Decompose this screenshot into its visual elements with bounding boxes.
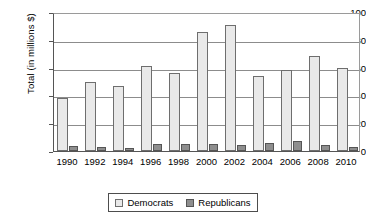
bar-group — [57, 14, 78, 151]
legend-entry-democrats[interactable]: Democrats — [115, 198, 173, 208]
bar-democrats[interactable] — [169, 73, 180, 151]
bar-chart: Total (in millions $) 020406080100 19901… — [0, 0, 366, 224]
x-tick-label: 1990 — [53, 157, 81, 167]
bar-group — [169, 14, 190, 151]
x-tick-label: 2004 — [248, 157, 276, 167]
x-tick-label: 2000 — [193, 157, 221, 167]
x-tick-label: 1996 — [137, 157, 165, 167]
bar-democrats[interactable] — [85, 82, 96, 152]
x-tick-label: 2006 — [276, 157, 304, 167]
bar-republicans[interactable] — [265, 143, 274, 151]
bar-republicans[interactable] — [153, 144, 162, 151]
legend-entry-republicans[interactable]: Republicans — [186, 198, 250, 208]
bar-democrats[interactable] — [113, 86, 124, 151]
bar-group — [253, 14, 274, 151]
bar-groups — [54, 14, 359, 151]
bar-group — [309, 14, 330, 151]
bar-democrats[interactable] — [253, 76, 264, 151]
bar-republicans[interactable] — [125, 148, 134, 151]
bar-republicans[interactable] — [209, 144, 218, 151]
bar-democrats[interactable] — [337, 68, 348, 151]
x-tick-label: 1994 — [109, 157, 137, 167]
bar-republicans[interactable] — [237, 145, 246, 151]
y-tick-mark — [49, 152, 53, 153]
bar-democrats[interactable] — [309, 56, 320, 151]
x-tick-label: 1998 — [165, 157, 193, 167]
bar-group — [113, 14, 134, 151]
bar-democrats[interactable] — [281, 70, 292, 151]
legend-label-democrats: Democrats — [127, 198, 173, 208]
bar-group — [85, 14, 106, 151]
x-tick-label: 2010 — [332, 157, 360, 167]
y-axis-title: Total (in millions $) — [25, 0, 36, 134]
bar-democrats[interactable] — [57, 98, 68, 151]
plot-area — [53, 13, 360, 152]
bar-republicans[interactable] — [293, 141, 302, 151]
x-tick-label: 1992 — [81, 157, 109, 167]
bar-republicans[interactable] — [349, 147, 358, 151]
bar-republicans[interactable] — [69, 146, 78, 151]
bar-group — [225, 14, 246, 151]
bar-group — [197, 14, 218, 151]
bar-republicans[interactable] — [321, 145, 330, 151]
legend-swatch-republicans — [186, 199, 194, 207]
chart-legend: Democrats Republicans — [108, 193, 258, 212]
bar-republicans[interactable] — [181, 144, 190, 151]
x-tick-label: 2008 — [304, 157, 332, 167]
bar-democrats[interactable] — [141, 66, 152, 151]
legend-label-republicans: Republicans — [198, 198, 250, 208]
x-tick-label: 2002 — [220, 157, 248, 167]
legend-swatch-democrats — [115, 199, 123, 207]
bar-republicans[interactable] — [97, 147, 106, 151]
bar-group — [281, 14, 302, 151]
bar-democrats[interactable] — [197, 32, 208, 151]
bar-group — [337, 14, 358, 151]
bar-group — [141, 14, 162, 151]
bar-democrats[interactable] — [225, 25, 236, 151]
